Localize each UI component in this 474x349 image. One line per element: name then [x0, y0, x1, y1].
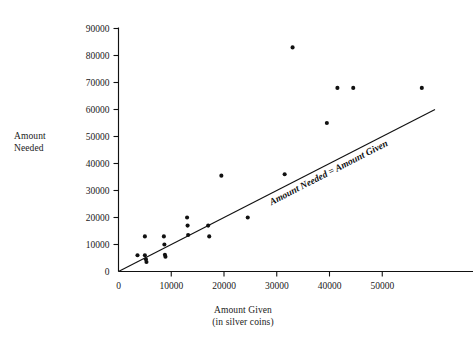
data-point — [335, 86, 339, 90]
x-axis-tick-label: 30000 — [265, 281, 289, 291]
y-axis-tick-label: 30000 — [86, 186, 110, 196]
x-axis-tick-label: 40000 — [318, 281, 342, 291]
data-point — [186, 233, 190, 237]
data-point — [144, 260, 148, 264]
data-point — [162, 242, 166, 246]
x-axis-label-group: Amount Given(in silver coins) — [178, 304, 308, 328]
y-axis-tick-label: 20000 — [86, 213, 110, 223]
x-axis-label-sublabel: (in silver coins) — [212, 317, 273, 327]
data-point — [206, 224, 210, 228]
data-point — [163, 255, 167, 259]
y-axis-tick-label: 90000 — [86, 24, 110, 34]
data-point — [291, 45, 295, 49]
y-axis-tick-label: 10000 — [86, 240, 110, 250]
y-axis-label: Amount Needed — [14, 130, 46, 154]
data-point — [351, 86, 355, 90]
data-point — [246, 215, 250, 219]
y-axis-tick-label: 50000 — [86, 132, 110, 142]
data-point — [207, 234, 211, 238]
y-axis-tick-label: 60000 — [86, 105, 110, 115]
x-axis-tick-label: 50000 — [370, 281, 394, 291]
data-point — [162, 234, 166, 238]
data-point — [420, 86, 424, 90]
x-axis-tick-label: 10000 — [159, 281, 183, 291]
data-point — [283, 172, 287, 176]
scatter-plot-figure: Amount Needed 01000020000300004000050000… — [0, 0, 474, 349]
reference-line — [119, 110, 436, 272]
x-axis-label: Amount Given — [214, 305, 272, 315]
plot-canvas: 0100002000030000400005000001000020000300… — [0, 0, 474, 349]
y-axis-tick-label: 70000 — [86, 78, 110, 88]
y-axis-tick-label: 40000 — [86, 159, 110, 169]
y-axis-tick-label: 80000 — [86, 51, 110, 61]
data-point — [185, 215, 189, 219]
data-point — [186, 224, 190, 228]
data-point — [143, 253, 147, 257]
y-axis-tick-label: 0 — [105, 267, 110, 277]
x-axis-tick-label: 0 — [116, 281, 121, 291]
data-point — [143, 234, 147, 238]
data-point — [135, 253, 139, 257]
data-point — [219, 174, 223, 178]
x-axis-tick-label: 20000 — [212, 281, 236, 291]
data-point — [325, 121, 329, 125]
